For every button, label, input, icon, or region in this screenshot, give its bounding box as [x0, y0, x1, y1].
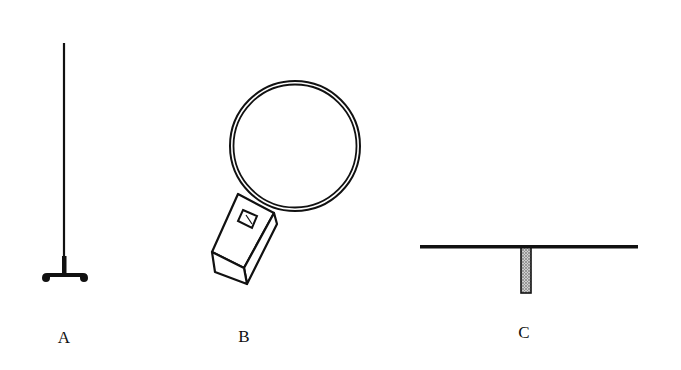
rod-base-collar — [62, 256, 67, 274]
dipole-bar — [420, 245, 638, 249]
label-a: A — [58, 329, 70, 346]
loop-ring-inner — [234, 85, 357, 208]
dipole-antenna-icon — [420, 245, 638, 293]
loop-ring-outer — [230, 81, 360, 211]
vertical-rod-antenna-icon — [42, 43, 88, 282]
loop-antenna-meter-icon — [212, 81, 360, 284]
label-b: B — [238, 328, 249, 345]
stand-base — [42, 273, 88, 282]
label-c: C — [518, 324, 529, 341]
dipole-stem — [521, 247, 531, 293]
antenna-diagram — [0, 0, 681, 370]
